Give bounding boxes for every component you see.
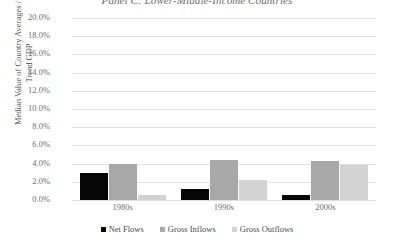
- y-axis-tick-label: 0.0%: [6, 195, 50, 204]
- y-axis-tick-label: 18.0%: [6, 31, 50, 40]
- legend-label: Gross Inflows: [168, 224, 216, 234]
- plot-area: 20.0%18.0%16.0%14.0%12.0%10.0%8.0%6.0%4.…: [72, 18, 376, 200]
- legend-label: Gross Outflows: [240, 224, 294, 234]
- chart-legend: Net FlowsGross InflowsGross Outflows: [0, 224, 394, 234]
- chart-panel-c: Panel C: Lower-Middle-Income Countries M…: [0, 0, 394, 246]
- bar-gross-inflows-1990s: [210, 160, 238, 200]
- bar-series-layer: [72, 18, 376, 200]
- legend-swatch-icon: [232, 227, 237, 232]
- legend-swatch-icon: [101, 227, 106, 232]
- legend-item-gross-outflows[interactable]: Gross Outflows: [232, 224, 294, 234]
- y-axis-tick-label: 10.0%: [6, 104, 50, 113]
- bar-net-flows-2000s: [282, 195, 310, 200]
- bar-net-flows-1990s: [181, 189, 209, 200]
- x-axis-tick-label-1980s: 1980s: [83, 202, 163, 212]
- legend-label: Net Flows: [109, 224, 144, 234]
- y-axis-tick-label: 8.0%: [6, 122, 50, 131]
- y-axis-tick-label: 12.0%: [6, 86, 50, 95]
- x-axis-tick-label-2000s: 2000s: [285, 202, 365, 212]
- legend-item-gross-inflows[interactable]: Gross Inflows: [160, 224, 216, 234]
- legend-swatch-icon: [160, 227, 165, 232]
- bar-gross-outflows-1980s: [138, 195, 166, 200]
- bar-gross-outflows-2000s: [340, 165, 368, 200]
- bar-gross-outflows-1990s: [239, 180, 267, 200]
- y-axis-tick-label: 4.0%: [6, 159, 50, 168]
- y-axis-tick-label: 20.0%: [6, 13, 50, 22]
- y-axis-tick-label: 2.0%: [6, 177, 50, 186]
- bar-gross-inflows-2000s: [311, 161, 339, 200]
- bar-gross-inflows-1980s: [109, 164, 137, 200]
- gridline: [72, 200, 376, 201]
- legend-item-net-flows[interactable]: Net Flows: [101, 224, 144, 234]
- y-axis-tick-label: 6.0%: [6, 140, 50, 149]
- bar-net-flows-1980s: [80, 173, 108, 200]
- y-axis-tick-label: 16.0%: [6, 49, 50, 58]
- x-axis-tick-label-1990s: 1990s: [184, 202, 264, 212]
- y-axis-tick-label: 14.0%: [6, 68, 50, 77]
- chart-title: Panel C: Lower-Middle-Income Countries: [0, 0, 394, 6]
